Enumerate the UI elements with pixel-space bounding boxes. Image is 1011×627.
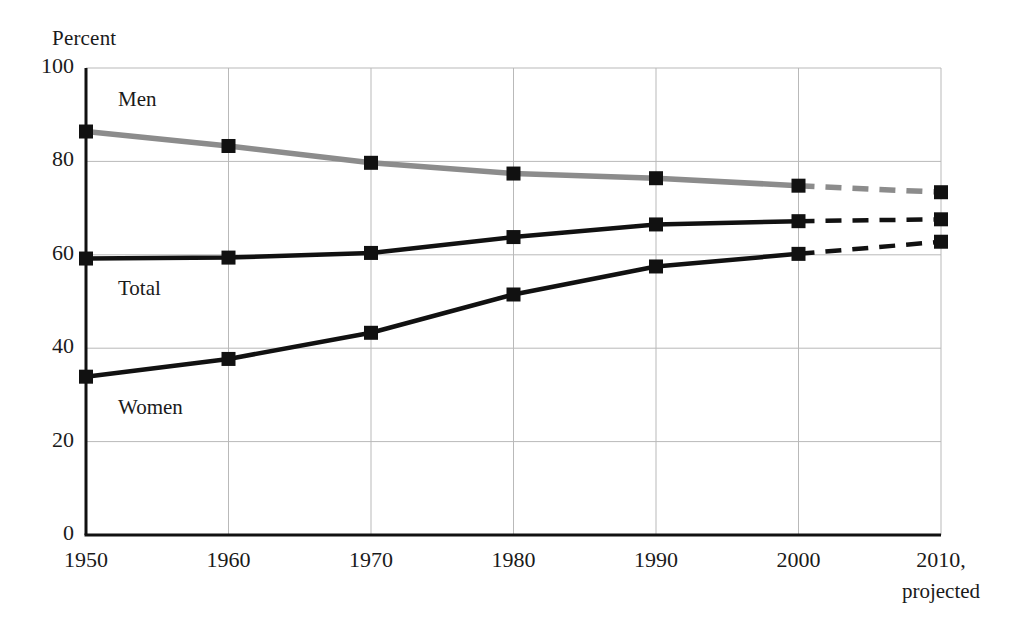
series-line-projected-men	[799, 186, 942, 193]
projected-note: projected	[856, 579, 1011, 604]
data-point-marker	[934, 235, 948, 249]
series-label-men: Men	[118, 87, 157, 112]
series-line-solid-men	[86, 132, 799, 186]
y-tick-label: 40	[18, 333, 74, 359]
data-point-marker	[364, 326, 378, 340]
x-tick-label: 1950	[26, 547, 146, 573]
data-point-marker	[792, 179, 806, 193]
data-point-marker	[79, 370, 93, 384]
series-label-women: Women	[118, 395, 183, 420]
data-point-marker	[507, 167, 521, 181]
x-tick-label: 2010,	[881, 547, 1001, 573]
y-tick-label: 100	[18, 53, 74, 79]
x-tick-label: 1960	[169, 547, 289, 573]
data-point-marker	[507, 230, 521, 244]
x-tick-label: 1990	[596, 547, 716, 573]
data-point-marker	[222, 352, 236, 366]
data-point-marker	[792, 214, 806, 228]
percent-line-chart: Percent 100806040200 1950196019701980199…	[0, 0, 1011, 627]
data-point-marker	[792, 247, 806, 261]
data-point-marker	[364, 156, 378, 170]
data-point-marker	[649, 217, 663, 231]
data-point-marker	[79, 125, 93, 139]
y-tick-label: 20	[18, 427, 74, 453]
series-line-projected-women	[799, 242, 942, 254]
data-point-marker	[364, 246, 378, 260]
series-label-total: Total	[118, 276, 161, 301]
y-tick-label: 80	[18, 146, 74, 172]
data-point-marker	[222, 139, 236, 153]
x-tick-label: 1980	[454, 547, 574, 573]
y-tick-label: 0	[18, 520, 74, 546]
x-tick-label: 1970	[311, 547, 431, 573]
data-point-marker	[649, 259, 663, 273]
x-tick-label: 2000	[739, 547, 859, 573]
data-point-marker	[507, 287, 521, 301]
data-point-marker	[934, 212, 948, 226]
series-line-solid-total	[86, 221, 799, 258]
data-point-marker	[649, 171, 663, 185]
series-line-solid-women	[86, 254, 799, 377]
data-point-marker	[222, 251, 236, 265]
series-line-projected-total	[799, 219, 942, 221]
data-point-marker	[79, 252, 93, 266]
y-tick-label: 60	[18, 240, 74, 266]
data-point-marker	[934, 185, 948, 199]
